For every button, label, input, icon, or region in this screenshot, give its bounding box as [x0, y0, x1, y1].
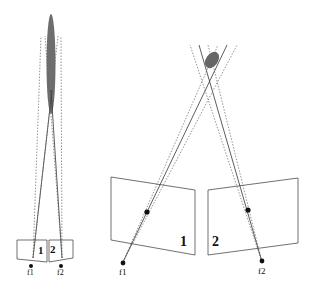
right-panel — [111, 45, 298, 265]
right-image-point-2 — [245, 207, 250, 212]
right-plane-2-label: 2 — [212, 234, 219, 250]
left-panel — [17, 14, 73, 268]
right-image-point-1 — [144, 209, 149, 214]
right-focal-point-1 — [121, 261, 126, 266]
left-focal-1-label: f1 — [27, 268, 34, 277]
right-focal-1-label: f1 — [119, 267, 127, 277]
right-plane-1-label: 1 — [180, 234, 187, 250]
left-plane-2-label: 2 — [50, 243, 56, 255]
left-focal-2-label: f2 — [57, 268, 64, 277]
left-plane-1-label: 1 — [38, 244, 44, 256]
right-focal-2-label: f2 — [258, 266, 266, 276]
left-ray-2-bound-b — [61, 36, 62, 258]
stereo-uncertainty-diagram — [0, 0, 314, 287]
right-image-plane-2 — [208, 178, 298, 255]
right-focal-point-2 — [260, 259, 265, 264]
